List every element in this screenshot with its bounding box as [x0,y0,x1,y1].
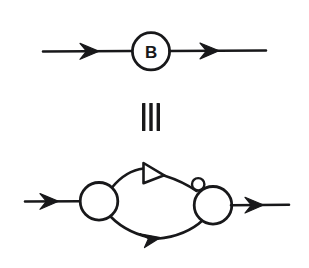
top-node-b: B [132,33,169,70]
top-output-arrow [170,43,267,59]
top-input-arrow [43,43,132,59]
lower-arc-right-segment [157,220,203,239]
equivalence-bar-2 [149,103,152,131]
top-diagram-group: B [43,33,266,70]
lower-arc-arrowhead [140,234,161,248]
inverter-bubble-icon [192,178,204,190]
equivalence-bar-1 [142,103,145,131]
signal-flow-equivalence-figure: B ≡ [0,0,309,268]
lower-feedback-branch [111,217,204,248]
equivalence-symbol: ≡ [142,103,160,131]
upper-arc-left-segment [112,169,144,188]
triangle-amplifier-icon [144,163,165,183]
bottom-right-node-circle [194,187,232,225]
upper-feedforward-branch [112,163,197,191]
bottom-diagram-group [25,163,289,248]
equivalence-bar-3 [157,103,160,131]
top-node-label: B [145,43,157,62]
bottom-left-node-circle [80,183,118,221]
bottom-output-arrow [231,197,289,213]
figure-canvas: B ≡ [0,0,309,268]
bottom-input-arrow [25,194,81,210]
